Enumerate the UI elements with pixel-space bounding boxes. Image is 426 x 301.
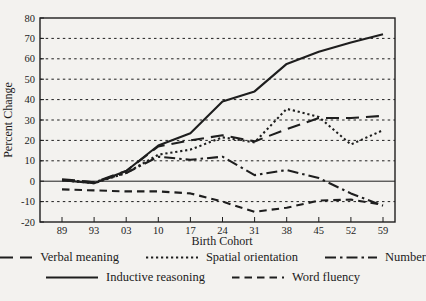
legend-item-inductive-reasoning: Inductive reasoning: [45, 270, 205, 285]
y-tick-label: 10: [25, 155, 36, 166]
legend-item-number: Number: [324, 250, 426, 265]
y-tick-label: 70: [25, 33, 36, 44]
legend-row: Inductive reasoningWord fluency: [45, 270, 360, 285]
series-line-word-fluency: [62, 189, 383, 211]
y-tick-label: -20: [21, 217, 35, 228]
x-axis-label: Birth Cohort: [191, 234, 253, 248]
y-tick-label: 30: [25, 115, 36, 126]
x-tick-label: 38: [281, 225, 292, 236]
y-tick-label: 60: [25, 53, 36, 64]
legend-label: Spatial orientation: [206, 250, 298, 265]
legend-label: Word fluency: [292, 270, 360, 285]
y-tick-label: 20: [25, 135, 36, 146]
legend-item-word-fluency: Word fluency: [231, 270, 360, 285]
x-tick-label: 45: [314, 225, 325, 236]
legend-row: Verbal meaningSpatial orientationNumber: [0, 250, 426, 265]
legend-item-spatial-orientation: Spatial orientation: [145, 250, 298, 265]
x-tick-label: 10: [153, 225, 164, 236]
y-tick-label: -10: [21, 196, 35, 207]
series-line-verbal-meaning: [62, 116, 383, 182]
x-tick-label: 89: [57, 225, 68, 236]
legend-line-sample: [231, 274, 285, 281]
x-tick-label: 93: [89, 225, 100, 236]
data-series: [62, 34, 383, 212]
y-tick-label: 50: [25, 74, 36, 85]
line-chart: 80706050403020100-10-2089930310172431384…: [0, 0, 405, 250]
legend-label: Number: [385, 250, 426, 265]
y-tick-label: 0: [30, 176, 35, 187]
legend: Verbal meaningSpatial orientationNumberI…: [0, 250, 405, 285]
legend-label: Inductive reasoning: [106, 270, 205, 285]
legend-line-sample: [145, 254, 199, 261]
legend-item-verbal-meaning: Verbal meaning: [0, 250, 119, 265]
x-tick-label: 59: [378, 225, 389, 236]
x-tick-label: 52: [346, 225, 357, 236]
y-axis-label: Percent Change: [1, 82, 15, 158]
legend-line-sample: [0, 254, 33, 261]
gridlines: [40, 38, 395, 201]
legend-line-sample: [324, 254, 378, 261]
y-tick-label: 80: [25, 13, 36, 24]
legend-line-sample: [45, 274, 99, 281]
x-tick-label: 03: [121, 225, 132, 236]
legend-label: Verbal meaning: [40, 250, 119, 265]
y-tick-label: 40: [25, 94, 36, 105]
